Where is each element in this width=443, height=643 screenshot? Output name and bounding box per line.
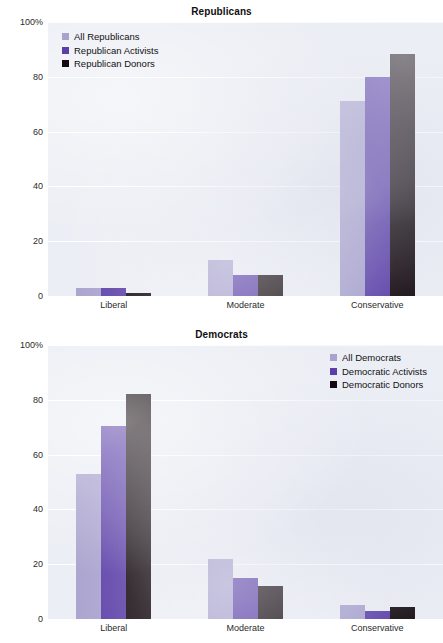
- legend-swatch-icon: [62, 60, 69, 67]
- bar: [390, 607, 415, 619]
- legend-item-label: Republican Activists: [74, 44, 158, 58]
- bar: [258, 275, 283, 296]
- bar: [126, 293, 151, 296]
- chart-title-republicans: Republicans: [0, 6, 443, 17]
- bar: [258, 586, 283, 619]
- y-axis-tick-label: 0: [1, 615, 43, 624]
- legend-democrats: All DemocratsDemocratic ActivistsDemocra…: [330, 351, 427, 392]
- y-axis-tick-label: 100%: [1, 341, 43, 350]
- x-axis-tick-label: Conservative: [327, 300, 427, 310]
- bar: [208, 559, 233, 619]
- x-axis-tick-label: Moderate: [196, 623, 296, 633]
- legend-item[interactable]: Republican Donors: [62, 57, 158, 71]
- legend-item-label: Republican Donors: [74, 57, 155, 71]
- bar: [126, 394, 151, 619]
- legend-swatch-icon: [330, 354, 337, 361]
- bar: [208, 260, 233, 296]
- legend-swatch-icon: [330, 368, 337, 375]
- y-axis-tick-label: 40: [1, 182, 43, 191]
- bar: [340, 101, 365, 296]
- legend-swatch-icon: [330, 381, 337, 388]
- gridline: [48, 400, 443, 401]
- legend-swatch-icon: [62, 33, 69, 40]
- y-axis-tick-label: 20: [1, 560, 43, 569]
- y-axis-tick-label: 0: [1, 292, 43, 301]
- legend-item[interactable]: Democratic Activists: [330, 365, 427, 379]
- x-axis-tick-label: Moderate: [196, 300, 296, 310]
- bar: [340, 605, 365, 619]
- legend-item[interactable]: Republican Activists: [62, 44, 158, 58]
- chart-panel-republicans: Republicans 020406080100% LiberalModerat…: [0, 0, 443, 315]
- legend-item-label: All Democrats: [342, 351, 401, 365]
- x-axis-tick-label: Liberal: [64, 300, 164, 310]
- x-axis-tick-label: Conservative: [327, 623, 427, 633]
- bar: [365, 611, 390, 619]
- y-axis-tick-label: 80: [1, 396, 43, 405]
- legend-item[interactable]: Democratic Donors: [330, 378, 427, 392]
- legend-republicans: All RepublicansRepublican ActivistsRepub…: [62, 30, 158, 71]
- legend-item-label: Democratic Donors: [342, 378, 423, 392]
- figure-page: Republicans 020406080100% LiberalModerat…: [0, 0, 443, 643]
- gridline: [48, 22, 443, 23]
- bar: [101, 288, 126, 296]
- bar: [76, 474, 101, 619]
- bar: [390, 54, 415, 296]
- legend-swatch-icon: [62, 47, 69, 54]
- y-axis-tick-label: 80: [1, 73, 43, 82]
- legend-item[interactable]: All Democrats: [330, 351, 427, 365]
- bar: [76, 288, 101, 296]
- chart-panel-democrats: Democrats 020406080100% LiberalModerateC…: [0, 325, 443, 643]
- bar: [101, 426, 126, 619]
- y-axis-tick-label: 40: [1, 505, 43, 514]
- gridline: [48, 345, 443, 346]
- bar: [233, 578, 258, 619]
- x-axis-tick-label: Liberal: [64, 623, 164, 633]
- y-axis-tick-label: 60: [1, 128, 43, 137]
- legend-item-label: Democratic Activists: [342, 365, 427, 379]
- y-axis-tick-label: 20: [1, 237, 43, 246]
- y-axis-tick-label: 60: [1, 451, 43, 460]
- bar: [365, 77, 390, 296]
- legend-item[interactable]: All Republicans: [62, 30, 158, 44]
- chart-title-democrats: Democrats: [0, 329, 443, 340]
- bar: [233, 275, 258, 296]
- y-axis-tick-label: 100%: [1, 18, 43, 27]
- legend-item-label: All Republicans: [74, 30, 139, 44]
